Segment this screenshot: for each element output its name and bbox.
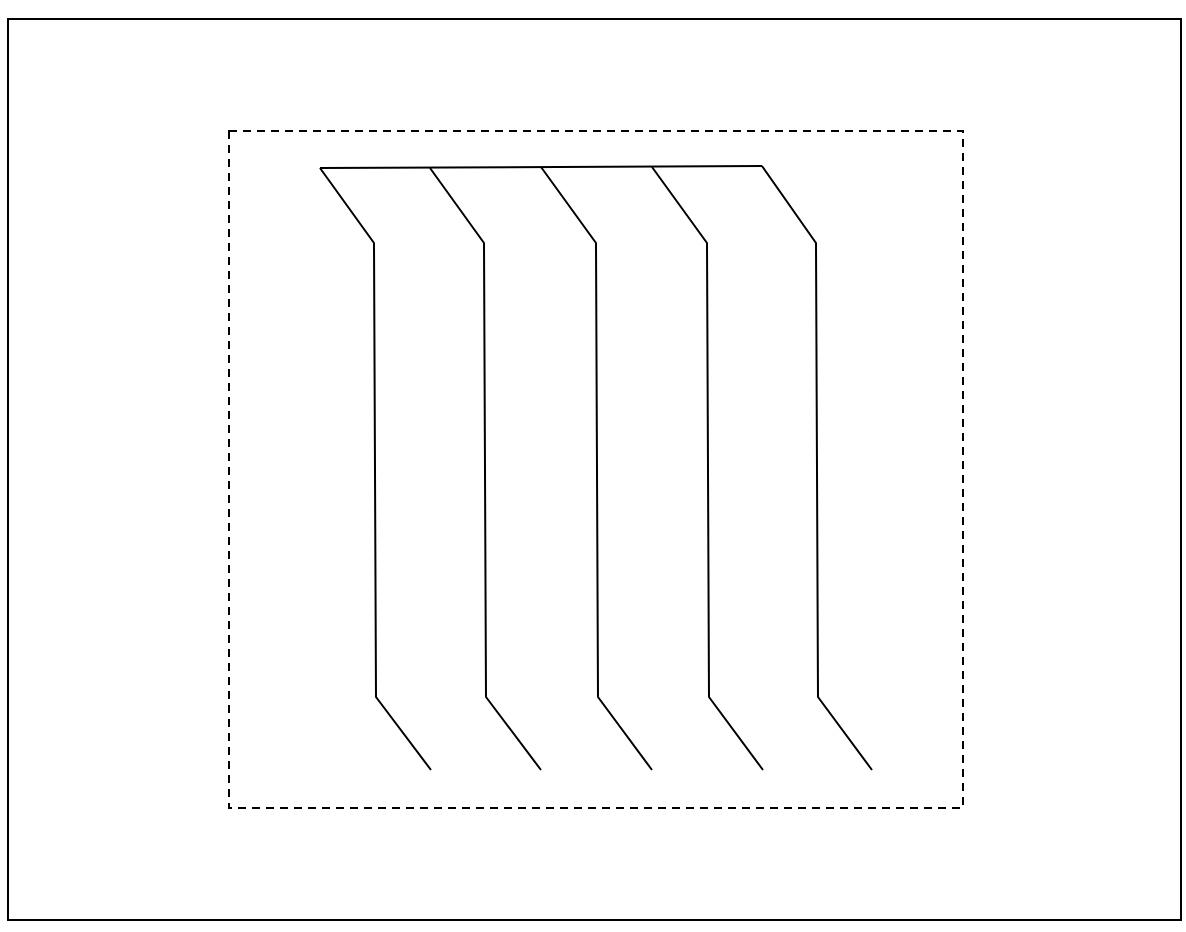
diagram-canvas	[0, 0, 1186, 932]
background	[0, 0, 1186, 932]
